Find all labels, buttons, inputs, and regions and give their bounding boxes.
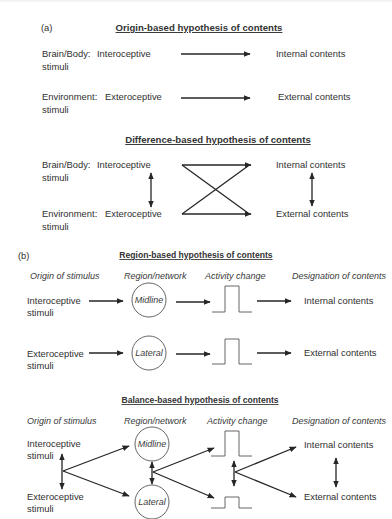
- stimulus-label-line2: stimuli: [27, 307, 54, 318]
- region-label: Lateral: [138, 497, 167, 507]
- panel-a: (a) Origin-based hypothesis of contents …: [41, 22, 351, 232]
- stimulus-label-line2: stimuli: [27, 450, 54, 461]
- activity-pulse-icon: [212, 339, 252, 364]
- column-header: Origin of stimulus: [27, 416, 97, 426]
- region-based-section: Region-based hypothesis of contents Orig…: [27, 250, 387, 371]
- region-label: Midline: [138, 439, 167, 449]
- region-based-title: Region-based hypothesis of contents: [119, 250, 272, 260]
- target-label: Internal contents: [304, 439, 374, 450]
- origin-based-section: Origin-based hypothesis of contents Brai…: [42, 22, 351, 115]
- stimulus-label-line2: stimuli: [42, 104, 69, 115]
- stimulus-label-line2: stimuli: [27, 503, 54, 514]
- source-label: Environment:: [42, 91, 97, 102]
- stimulus-label: Interoceptive: [27, 295, 81, 306]
- panel-b: (b) Region-based hypothesis of contents …: [18, 250, 387, 519]
- arrow-diagonal-icon: [63, 446, 129, 471]
- column-header: Region/network: [124, 416, 187, 426]
- activity-pulse-high-icon: [211, 431, 252, 456]
- diagram-canvas: (a) Origin-based hypothesis of contents …: [0, 0, 392, 519]
- target-label: Internal contents: [276, 48, 346, 59]
- origin-based-title: Origin-based hypothesis of contents: [116, 22, 283, 33]
- column-header: Activity change: [204, 271, 266, 281]
- target-label: External contents: [278, 91, 351, 102]
- source-label: Environment:: [42, 208, 97, 219]
- target-label: External contents: [304, 347, 377, 358]
- region-label: Lateral: [135, 348, 164, 358]
- target-label: Internal contents: [276, 159, 346, 170]
- source-label: Brain/Body:: [42, 159, 90, 170]
- stimulus-label-line2: stimuli: [27, 360, 54, 371]
- column-header: Activity change: [206, 416, 268, 426]
- column-header: Designation of contents: [292, 271, 387, 281]
- target-label: External contents: [304, 491, 377, 502]
- cross-line-icon: [182, 165, 248, 213]
- stimulus-label: Interoceptive: [97, 159, 151, 170]
- arrow-diagonal-icon: [235, 472, 296, 497]
- stimulus-label: Exteroceptive: [105, 208, 162, 219]
- balance-based-section: Balance-based hypothesis of contents Ori…: [27, 395, 387, 519]
- panel-a-label: (a): [41, 22, 52, 33]
- column-header: Origin of stimulus: [30, 271, 100, 281]
- stimulus-label: Exteroceptive: [105, 91, 162, 102]
- stimulus-label-line2: stimuli: [42, 172, 69, 183]
- source-label: Brain/Body:: [42, 48, 90, 59]
- column-header: Designation of contents: [292, 416, 387, 426]
- arrow-diagonal-icon: [235, 447, 296, 472]
- stimulus-label: Interoceptive: [27, 438, 81, 449]
- stimulus-label-line2: stimuli: [42, 221, 69, 232]
- stimulus-label: Exteroceptive: [27, 348, 84, 359]
- activity-pulse-low-icon: [211, 497, 252, 508]
- stimulus-label: Exteroceptive: [27, 491, 84, 502]
- target-label: Internal contents: [304, 295, 374, 306]
- balance-based-title: Balance-based hypothesis of contents: [121, 395, 278, 405]
- target-label: External contents: [276, 208, 349, 219]
- stimulus-label-line2: stimuli: [42, 61, 69, 72]
- column-header: Region/network: [124, 271, 187, 281]
- region-label: Midline: [135, 295, 164, 305]
- difference-based-section: Difference-based hypothesis of contents …: [42, 134, 349, 232]
- activity-pulse-icon: [212, 286, 252, 312]
- cross-line-icon: [182, 166, 248, 214]
- difference-based-title: Difference-based hypothesis of contents: [125, 134, 311, 145]
- panel-b-label: (b): [18, 250, 29, 261]
- stimulus-label: Interoceptive: [97, 48, 151, 59]
